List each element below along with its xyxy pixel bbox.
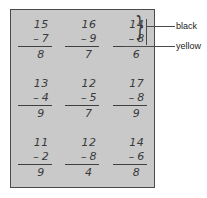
problem-cell: 17 – 8 9 — [113, 78, 147, 119]
subtrahend-row: – 6 — [110, 151, 147, 164]
problem-cell: 12 – 5 7 — [65, 78, 99, 119]
answer: 9 — [133, 106, 148, 119]
minus-operator: – — [81, 92, 87, 103]
subtrahend-row: – 2 — [15, 151, 52, 164]
callout-label-yellow: yellow — [176, 41, 201, 51]
subtrahend-row: – 7 — [15, 33, 52, 46]
answer: 7 — [85, 106, 100, 119]
subtrahend-row: – 9 — [62, 33, 99, 46]
minuend: 16 — [81, 19, 99, 33]
subtrahend: 5 — [89, 92, 96, 103]
problem-cell: 16 – 9 7 — [65, 19, 99, 60]
problem-cell: 14 – 6 8 — [113, 137, 147, 178]
answer: 8 — [37, 47, 52, 60]
minuend: 17 — [129, 78, 147, 92]
minus-operator: – — [81, 33, 87, 44]
subtrahend: 4 — [42, 92, 49, 103]
subtrahend: 8 — [137, 92, 144, 103]
minus-operator: – — [129, 92, 135, 103]
minuend: 15 — [34, 19, 52, 33]
black-callout-leader-line — [146, 26, 175, 27]
subtrahend: 8 — [89, 151, 96, 162]
black-callout-connector — [146, 19, 147, 45]
answer: 9 — [37, 165, 52, 178]
callout-label-black: black — [176, 21, 197, 31]
problem-cell: 11 – 2 9 — [18, 137, 52, 178]
answer: 9 — [37, 106, 52, 119]
subtraction-worksheet-panel: 15 – 7 8 16 – 9 7 14 – 8 6 — [10, 9, 155, 188]
minuend: 13 — [34, 78, 52, 92]
subtrahend: 2 — [42, 151, 49, 162]
problem-grid: 15 – 7 8 16 – 9 7 14 – 8 6 — [11, 10, 154, 187]
answer: 6 — [133, 47, 148, 60]
problem-cell: 12 – 8 4 — [65, 137, 99, 178]
subtrahend-row: – 4 — [15, 92, 52, 105]
minus-operator: – — [33, 151, 39, 162]
subtrahend-row: – 8 — [62, 151, 99, 164]
subtrahend: 6 — [137, 151, 144, 162]
subtrahend: 9 — [89, 33, 96, 44]
minuend: 11 — [34, 137, 52, 151]
minuend: 14 — [129, 137, 147, 151]
minus-operator: – — [33, 33, 39, 44]
curly-brace-icon: } — [135, 13, 145, 39]
subtrahend-row: – 5 — [62, 92, 99, 105]
subtrahend-row: – 8 — [110, 92, 147, 105]
minuend: 12 — [81, 78, 99, 92]
problem-cell: 13 – 4 9 — [18, 78, 52, 119]
minus-operator: – — [81, 151, 87, 162]
problem-cell: 15 – 7 8 — [18, 19, 52, 60]
answer: 4 — [85, 165, 100, 178]
minuend: 12 — [81, 137, 99, 151]
subtrahend: 7 — [42, 33, 49, 44]
yellow-callout-leader-line — [124, 46, 175, 47]
minus-operator: – — [33, 92, 39, 103]
answer: 7 — [85, 47, 100, 60]
minus-operator: – — [129, 151, 135, 162]
answer: 8 — [133, 165, 148, 178]
minus-operator: – — [129, 33, 135, 44]
